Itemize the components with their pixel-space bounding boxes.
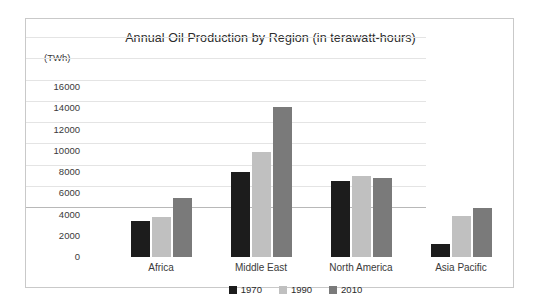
y-tick-label: 2000 [34,231,80,241]
x-tick-label: Middle East [235,262,287,273]
bar [452,216,471,257]
bar [373,178,392,257]
bar [431,244,450,257]
legend-item[interactable]: 1970 [229,284,262,295]
bar-group [331,87,392,257]
x-tick-label: Asia Pacific [435,262,487,273]
y-tick-label: 14000 [34,103,80,113]
y-tick-label: 12000 [34,125,80,135]
legend-swatch-icon [229,286,237,294]
legend-swatch-icon [329,286,337,294]
bar [352,176,371,257]
y-tick-label: 10000 [34,146,80,156]
y-axis-tick-labels: 1600014000120001000080006000400020000 [34,87,80,257]
legend-label: 2010 [341,284,362,295]
bar-group [131,87,192,257]
bar [173,198,192,257]
bar [252,152,271,257]
legend-swatch-icon [279,286,287,294]
legend-item[interactable]: 2010 [329,284,362,295]
bar [473,208,492,257]
gridline-12000 [26,80,426,81]
y-tick-label: 8000 [34,167,80,177]
legend-item[interactable]: 1990 [279,284,312,295]
bar-group [431,87,492,257]
y-tick-label: 4000 [34,210,80,220]
chart-legend: 197019902010 [26,284,539,295]
y-tick-label: 16000 [34,82,80,92]
bar [152,217,171,257]
x-tick-label: Africa [148,262,174,273]
bars-layer [111,87,511,257]
bar [331,181,350,258]
y-tick-label: 6000 [34,188,80,198]
bar-group [231,87,292,257]
bar [231,172,250,257]
x-axis-category-labels: AfricaMiddle EastNorth AmericaAsia Pacif… [111,262,511,278]
bar [273,107,292,257]
chart-frame: Annual Oil Production by Region (in tera… [25,18,514,288]
y-tick-label: 0 [34,252,80,262]
legend-label: 1970 [241,284,262,295]
gridline-14000 [26,58,426,59]
x-tick-label: North America [329,262,392,273]
bar [131,221,150,257]
gridline-16000 [26,37,426,38]
legend-label: 1990 [291,284,312,295]
